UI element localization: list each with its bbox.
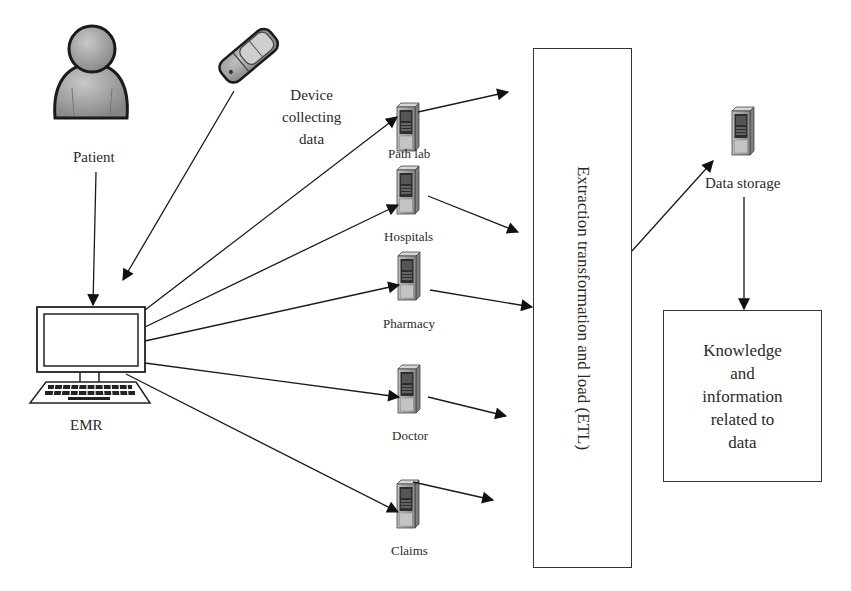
arrow-emr-hospitals [145,205,398,327]
data-storage-label: Data storage [705,174,780,192]
patient-person-icon [55,26,128,118]
patient-label: Patient [73,148,115,166]
etl-box: Extraction transformation and load (ETL) [533,48,632,568]
doctor-label: Doctor [392,428,428,443]
device-label-line-2: collecting [282,106,341,128]
arrow-etl-storage [632,161,713,251]
device-label-line-1: Device [282,84,341,106]
claims-label: Claims [391,543,428,558]
arrow-pharmacy-etl [430,290,532,307]
knowledge-label: Knowledge and information related to dat… [664,339,821,454]
device-label: Device collecting data [282,84,341,150]
knowledge-box: Knowledge and information related to dat… [663,310,822,482]
knowledge-line-3: information [664,385,821,408]
path-lab-label: Path lab [388,146,430,161]
arrow-claims-etl [413,482,493,500]
arrow-emr-doctor [145,363,399,397]
emr-computer-icon [30,307,150,403]
pharmacy-server-icon [398,252,420,300]
path-lab-server-icon [397,103,419,151]
claims-server-icon [397,480,419,528]
arrow-emr-claims [126,374,398,512]
data-storage-server-icon [732,107,754,155]
device-label-line-3: data [282,128,341,150]
arrow-hospitals-etl [428,196,518,232]
emr-label: EMR [70,416,103,434]
device-phone-icon [216,25,282,86]
arrow-patient-emr [93,172,96,305]
diagram-canvas [0,0,851,591]
pharmacy-label: Pharmacy [383,316,435,331]
arrow-emr-pathlab [145,117,397,310]
knowledge-line-4: related to [664,408,821,431]
etl-label: Extraction transformation and load (ETL) [573,166,593,450]
arrow-emr-pharmacy [145,285,399,341]
arrow-doctor-etl [428,397,506,416]
doctor-server-icon [398,365,420,413]
knowledge-line-5: data [664,431,821,454]
arrow-device-emr [123,91,234,280]
hospitals-label: Hospitals [384,229,433,244]
knowledge-line-2: and [664,362,821,385]
knowledge-line-1: Knowledge [664,339,821,362]
arrow-pathlab-etl [418,92,508,112]
hospitals-server-icon [397,166,419,214]
